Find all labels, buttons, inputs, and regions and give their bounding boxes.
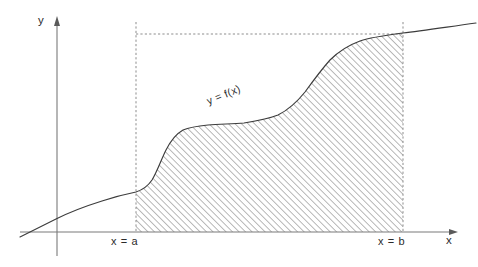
figure-canvas: y x x = a x = b y = f(x) bbox=[0, 0, 478, 267]
lower-bound-label: x = a bbox=[111, 235, 138, 247]
diagram-svg bbox=[0, 0, 478, 267]
y-axis-label: y bbox=[38, 14, 44, 26]
x-axis-label: x bbox=[446, 234, 452, 246]
upper-bound-label: x = b bbox=[378, 235, 405, 247]
shaded-area-under-curve bbox=[130, 20, 410, 236]
